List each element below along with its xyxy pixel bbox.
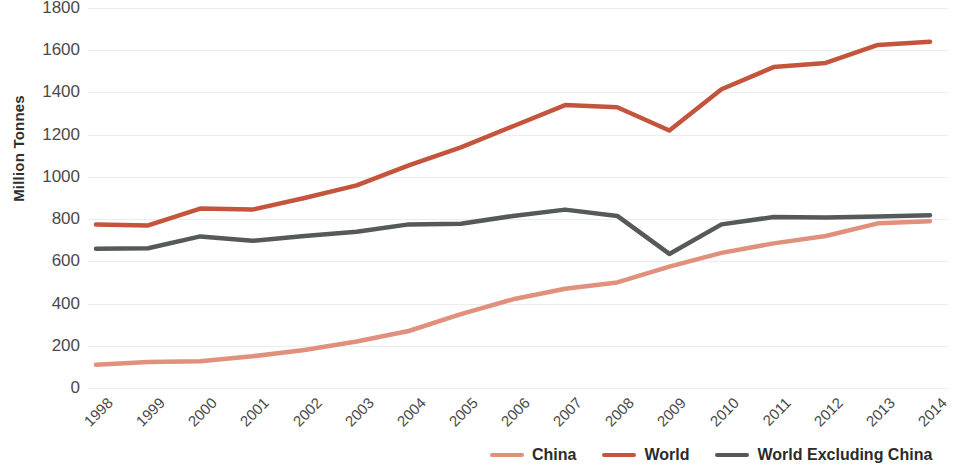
plot-area [88, 8, 948, 388]
x-axis-tick-label: 2010 [698, 394, 741, 437]
y-axis-tick-label: 1800 [24, 0, 80, 18]
x-axis-tick-labels: 1998199920002001200220032004200520062007… [88, 388, 948, 448]
series-lines [88, 8, 948, 388]
legend-swatch-icon [602, 453, 636, 457]
x-axis-tick-label: 2011 [751, 394, 794, 437]
x-axis-tick-label: 2004 [386, 394, 429, 437]
y-axis-tick-label: 200 [24, 336, 80, 356]
legend: ChinaWorldWorld Excluding China [490, 446, 932, 464]
x-axis-tick-label: 2003 [334, 394, 377, 437]
x-axis-tick-label: 2006 [490, 394, 533, 437]
x-axis-tick-label: 2002 [281, 394, 324, 437]
legend-label: China [532, 446, 576, 464]
x-axis-tick-label: 2014 [907, 394, 950, 437]
legend-swatch-icon [715, 453, 749, 457]
legend-label: World Excluding China [757, 446, 932, 464]
x-axis-tick-label: 1999 [125, 394, 168, 437]
legend-item[interactable]: World Excluding China [715, 446, 932, 464]
x-axis-tick-label: 2000 [177, 394, 220, 437]
series-line [96, 210, 930, 254]
x-axis-tick-label: 2009 [646, 394, 689, 437]
y-axis-tick-labels: 020040060080010001200140016001800 [22, 0, 80, 472]
y-axis-tick-label: 600 [24, 251, 80, 271]
x-axis-tick-label: 2013 [855, 394, 898, 437]
line-chart: Million Tonnes 0200400600800100012001400… [0, 0, 962, 472]
x-axis-tick-label: 2008 [594, 394, 637, 437]
y-axis-tick-label: 0 [24, 378, 80, 398]
x-axis-tick-label: 2001 [229, 394, 272, 437]
y-axis-tick-label: 1400 [24, 82, 80, 102]
y-axis-tick-label: 400 [24, 294, 80, 314]
series-line [96, 42, 930, 226]
y-axis-tick-label: 800 [24, 209, 80, 229]
y-axis-tick-label: 1000 [24, 167, 80, 187]
x-axis-tick-label: 2012 [803, 394, 846, 437]
legend-swatch-icon [490, 453, 524, 457]
series-line [96, 221, 930, 365]
y-axis-tick-label: 1600 [24, 40, 80, 60]
legend-item[interactable]: World [602, 446, 689, 464]
x-axis-tick-label: 2007 [542, 394, 585, 437]
legend-item[interactable]: China [490, 446, 576, 464]
y-axis-tick-label: 1200 [24, 125, 80, 145]
x-axis-tick-label: 2005 [438, 394, 481, 437]
legend-label: World [644, 446, 689, 464]
